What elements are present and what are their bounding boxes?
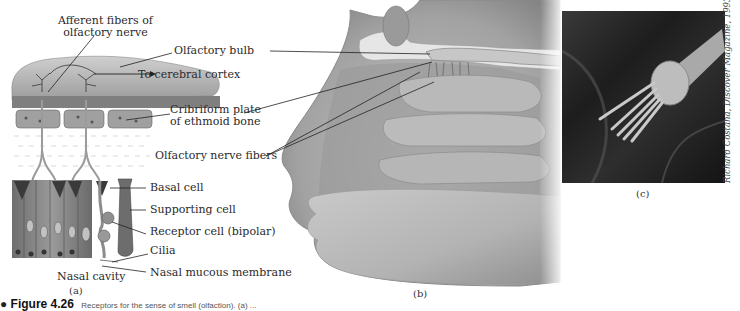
- label-nasal-mucous-membrane: Nasal mucous membrane: [150, 267, 292, 279]
- panel-b-head: [282, 0, 564, 290]
- label-to-cerebral-cortex: To cerebral cortex: [138, 69, 240, 81]
- panel-a-lamina: [14, 136, 150, 166]
- label-cribriform-plate: Cribriform plate of ethmoid bone: [170, 104, 261, 128]
- label-receptor-cell: Receptor cell (bipolar): [150, 226, 276, 238]
- bullet-icon: ●: [0, 297, 7, 311]
- label-afferent-fibers: Afferent fibers of olfactory nerve: [58, 15, 153, 39]
- receptor-cilia-image: [562, 11, 725, 183]
- label-cilia: Cilia: [150, 245, 176, 257]
- label-basal-cell: Basal cell: [150, 182, 204, 194]
- label-olfactory-nerve-fibers: Olfactory nerve fibers: [155, 150, 277, 162]
- panel-b-caption: (b): [413, 288, 427, 299]
- figure-caption-text: Receptors for the sense of smell (olfact…: [81, 301, 256, 310]
- label-afferent-line2: olfactory nerve: [58, 27, 153, 39]
- panel-c-caption: (c): [636, 188, 649, 199]
- figure-number: Figure 4.26: [11, 297, 74, 311]
- label-supporting-cell: Supporting cell: [150, 204, 236, 216]
- panel-a-epithelium: [12, 179, 133, 262]
- photo-credit: Richard Costana, Discover Magazine, 1993: [722, 23, 732, 183]
- panel-a-caption: (a): [69, 285, 83, 296]
- panel-c-micrograph: [562, 11, 725, 183]
- label-olfactory-bulb: Olfactory bulb: [174, 45, 254, 57]
- label-nasal-cavity: Nasal cavity: [57, 271, 126, 283]
- figure-title: ● Figure 4.26 Receptors for the sense of…: [0, 297, 256, 311]
- label-cribriform-line2: of ethmoid bone: [170, 116, 261, 128]
